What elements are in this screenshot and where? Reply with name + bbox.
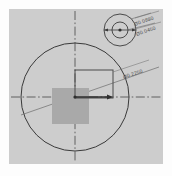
- inset-arrow-left-icon: [104, 28, 108, 31]
- drawing-canvas: Ø0.0880 Ø0.0450 Ø0.2250: [0, 0, 172, 176]
- filled-square: [52, 88, 89, 124]
- inset-center-dot-icon: [118, 28, 121, 31]
- center-mark-icon: [73, 95, 76, 98]
- arrow-right-icon: [107, 95, 113, 100]
- drawing-plot-area: Ø0.0880 Ø0.0450 Ø0.2250: [9, 9, 163, 164]
